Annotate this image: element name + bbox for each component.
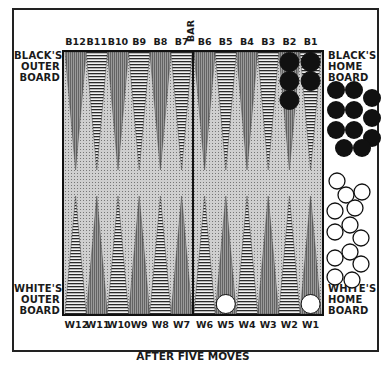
point-label-w2: W2	[278, 319, 300, 330]
point-label-b5: B5	[215, 36, 237, 47]
point-w2[interactable]	[279, 196, 300, 314]
white-checker[interactable]	[301, 295, 320, 314]
point-label-w8: W8	[149, 319, 171, 330]
black-checker[interactable]	[301, 53, 320, 72]
point-b7[interactable]	[171, 52, 192, 170]
point-label-b9: B9	[128, 36, 150, 47]
black-checker[interactable]	[280, 91, 299, 110]
point-b5[interactable]	[215, 52, 236, 170]
label-white-outer-board: WHITE'SOUTERBOARD	[14, 283, 60, 316]
point-w10[interactable]	[107, 196, 128, 314]
point-label-b4: B4	[236, 36, 258, 47]
label-black-home-board: BLACK'SHOMEBOARD	[328, 50, 377, 83]
point-label-b1: B1	[300, 36, 322, 47]
point-label-b10: B10	[107, 36, 129, 47]
point-b8[interactable]	[150, 52, 171, 170]
point-label-b8: B8	[149, 36, 171, 47]
point-w4[interactable]	[236, 196, 257, 314]
point-label-b3: B3	[257, 36, 279, 47]
point-label-w1: W1	[300, 319, 322, 330]
point-label-w5: W5	[215, 319, 237, 330]
point-b10[interactable]	[107, 52, 128, 170]
point-b12[interactable]	[65, 52, 86, 170]
point-w8[interactable]	[150, 196, 171, 314]
backgammon-board	[62, 50, 324, 316]
point-label-w4: W4	[236, 319, 258, 330]
caption: AFTER FIVE MOVES	[0, 350, 386, 362]
point-b3[interactable]	[258, 52, 279, 170]
label-white-home-board: WHITE'SHOMEBOARD	[328, 283, 376, 316]
point-label-b11: B11	[86, 36, 108, 47]
point-label-w3: W3	[257, 319, 279, 330]
point-label-w9: W9	[128, 319, 150, 330]
point-label-w10: W10	[107, 319, 129, 330]
black-checker[interactable]	[280, 53, 299, 72]
point-b9[interactable]	[129, 52, 150, 170]
point-label-w7: W7	[171, 319, 193, 330]
point-label-b12: B12	[65, 36, 87, 47]
point-label-b2: B2	[278, 36, 300, 47]
point-b6[interactable]	[194, 52, 215, 170]
point-w7[interactable]	[171, 196, 192, 314]
point-w11[interactable]	[86, 196, 107, 314]
point-w3[interactable]	[258, 196, 279, 314]
point-w6[interactable]	[194, 196, 215, 314]
point-w9[interactable]	[129, 196, 150, 314]
black-checker[interactable]	[280, 72, 299, 91]
point-b4[interactable]	[236, 52, 257, 170]
point-b11[interactable]	[86, 52, 107, 170]
label-black-outer-board: BLACK'SOUTERBOARD	[14, 50, 60, 83]
bar	[192, 52, 194, 314]
point-label-b6: B6	[194, 36, 216, 47]
point-label-b7: B7	[171, 36, 193, 47]
white-checker[interactable]	[216, 295, 235, 314]
point-w12[interactable]	[65, 196, 86, 314]
point-label-w6: W6	[194, 319, 216, 330]
black-checker[interactable]	[301, 72, 320, 91]
point-label-w12: W12	[65, 319, 87, 330]
point-label-w11: W11	[86, 319, 108, 330]
